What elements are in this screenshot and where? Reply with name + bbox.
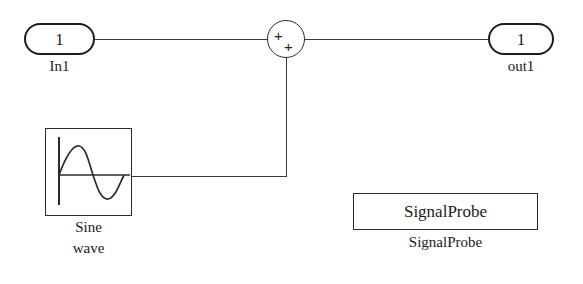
sum-plus-sign-top: +: [274, 28, 283, 43]
sine-wave-block[interactable]: [45, 128, 132, 216]
inport-number: 1: [55, 31, 64, 48]
inport-caption: In1: [24, 58, 95, 75]
signal-probe-inner-label: SignalProbe: [404, 202, 487, 222]
sine-wave-caption-line2: wave: [45, 240, 132, 257]
wire-sine-to-sum-horizontal[interactable]: [131, 176, 287, 177]
outport-number: 1: [517, 31, 526, 48]
outport-block-out1[interactable]: 1: [488, 23, 554, 55]
wire-sum-branch-vertical[interactable]: [286, 58, 287, 177]
signal-probe-caption: SignalProbe: [353, 234, 538, 251]
inport-block-in1[interactable]: 1: [24, 23, 95, 55]
signal-probe-block[interactable]: SignalProbe: [353, 193, 538, 230]
outport-caption: out1: [488, 58, 554, 75]
wire-sum-to-out1[interactable]: [305, 39, 488, 40]
sine-wave-icon: [46, 129, 130, 214]
wire-in1-to-sum[interactable]: [94, 39, 268, 40]
block-diagram-canvas: 1 In1 + + 1 out1 Sine wave SignalProbe S…: [0, 0, 583, 284]
sum-plus-sign-bottom: +: [284, 39, 293, 54]
sine-wave-caption-line1: Sine: [45, 219, 132, 236]
sum-block[interactable]: + +: [267, 20, 305, 58]
